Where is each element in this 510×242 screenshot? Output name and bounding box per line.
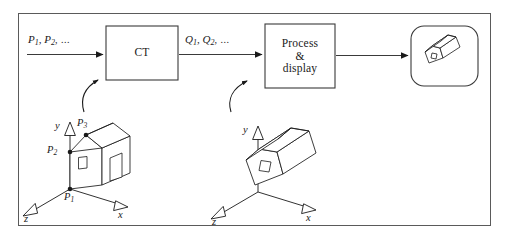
source-point-label-P2: P2 [47, 144, 57, 157]
source-point-label-P1: P1 [64, 191, 74, 204]
source-axis-label-z: z [24, 213, 28, 224]
transformed-axis-label-z: z [212, 216, 216, 227]
transformed-axis-label-x: x [306, 212, 311, 223]
process-display-line-2: & [263, 50, 337, 63]
figure-border [18, 13, 491, 226]
source-axis-label-x: x [118, 209, 123, 220]
figure-canvas: P1, P2, ... Q1, Q2, ... CT Process & dis… [0, 0, 510, 242]
process-display-block-label: Process & display [263, 37, 337, 75]
process-display-line-3: display [263, 62, 337, 75]
input-points-label: P1, P2, ... [28, 33, 70, 47]
transformed-axis-label-y: y [243, 124, 248, 135]
input-points-text: P1, P2, ... [28, 33, 70, 45]
process-display-line-1: Process [263, 37, 337, 50]
source-axis-label-y: y [55, 120, 60, 131]
output-points-text: Q1, Q2, ... [185, 33, 229, 45]
output-points-label: Q1, Q2, ... [185, 33, 229, 47]
ct-block-label: CT [107, 46, 177, 59]
source-point-label-P3: P3 [77, 117, 87, 130]
